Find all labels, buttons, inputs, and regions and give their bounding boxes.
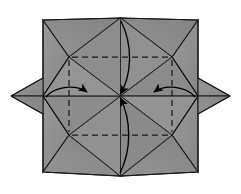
origami-figure: Origami fold step diagram xyxy=(0,0,241,194)
origami-diagram-canvas: Origami fold step diagram xyxy=(0,0,241,194)
paper-body xyxy=(11,18,230,176)
